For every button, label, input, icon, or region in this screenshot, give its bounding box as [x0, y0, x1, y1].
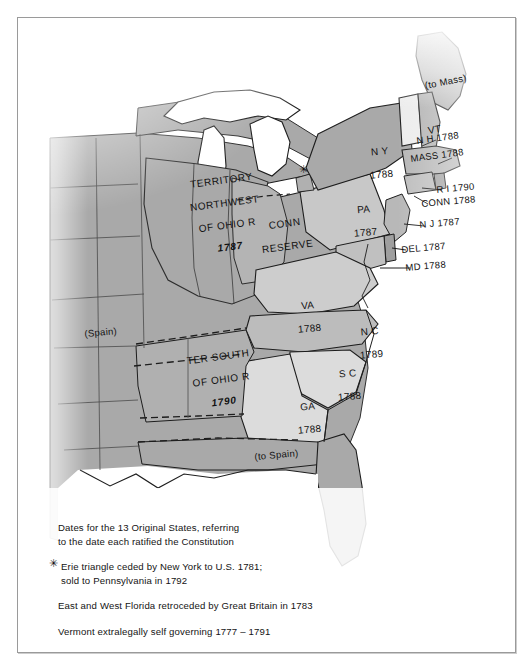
label-conn-reserve: CONN RESERVE	[230, 204, 315, 270]
label-year: 1789	[359, 347, 383, 360]
label-pennsylvania: PA 1787	[326, 192, 379, 252]
legend-star-icon: ✳	[49, 558, 58, 569]
label-georgia: GA 1788	[270, 389, 323, 449]
label-abbr: N Y	[371, 145, 389, 157]
erie-triangle-star-icon: ✳	[299, 164, 308, 175]
label-line: OF OHIO R	[192, 370, 251, 388]
label-line: TERRITORY	[190, 171, 254, 190]
legend: Dates for the 13 Original States, referr…	[58, 521, 438, 651]
label-year: 1787	[353, 225, 377, 238]
page-canvas: TERRITORY NORTHWEST OF OHIO R 1787 CONN …	[0, 0, 532, 671]
label-year: 1788	[297, 422, 321, 435]
label-virginia: VA 1788	[270, 288, 323, 348]
legend-line: Erie triangle ceded by New York to U.S. …	[61, 560, 438, 574]
label-ter-south-of-ohio: TER SOUTH OF OHIO R 1790	[158, 336, 257, 425]
legend-line: sold to Pennsylvania in 1792	[61, 574, 438, 588]
label-new-york: N Y 1788	[342, 134, 395, 194]
label-line: TER SOUTH	[186, 347, 250, 366]
legend-line: Dates for the 13 Original States, referr…	[58, 521, 438, 535]
legend-line: to the date each ratified the Constituti…	[58, 535, 438, 549]
legend-line: East and West Florida retroceded by Grea…	[58, 599, 438, 613]
legend-line: Vermont extralegally self governing 1777…	[58, 625, 438, 639]
label-line: CONN	[268, 216, 301, 231]
label-abbr: PA	[357, 203, 371, 215]
label-year: 1788	[369, 167, 393, 180]
legend-entry-florida: East and West Florida retroceded by Grea…	[58, 599, 438, 613]
label-abbr: N C	[360, 325, 379, 338]
legend-entry-erie-triangle: ✳ Erie triangle ceded by New York to U.S…	[58, 560, 438, 587]
label-line: NORTHWEST	[189, 193, 260, 213]
label-year: 1790	[211, 394, 238, 408]
legend-entry-vermont: Vermont extralegally self governing 1777…	[58, 625, 438, 639]
label-year: 1788	[337, 389, 361, 402]
label-abbr: VA	[301, 299, 315, 311]
label-year: 1788	[297, 321, 321, 334]
map-figure-frame: TERRITORY NORTHWEST OF OHIO R 1787 CONN …	[17, 17, 516, 653]
label-abbr: GA	[300, 400, 316, 412]
legend-entry-dates: Dates for the 13 Original States, referr…	[58, 521, 438, 548]
label-abbr: S C	[338, 367, 356, 379]
label-line: RESERVE	[261, 237, 314, 255]
